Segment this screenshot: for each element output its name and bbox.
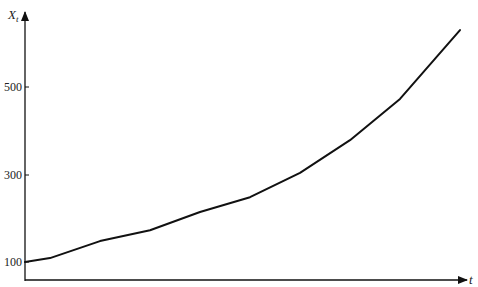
x-axis-label: t: [469, 272, 473, 287]
ytick-label-300: 300: [4, 168, 22, 182]
chart-canvas: 500 300 100 Xt t: [0, 0, 478, 287]
ytick-label-500: 500: [4, 80, 22, 94]
ytick-label-100: 100: [4, 255, 22, 269]
y-axis-label: Xt: [7, 7, 19, 24]
series-line-xt: [25, 30, 460, 262]
